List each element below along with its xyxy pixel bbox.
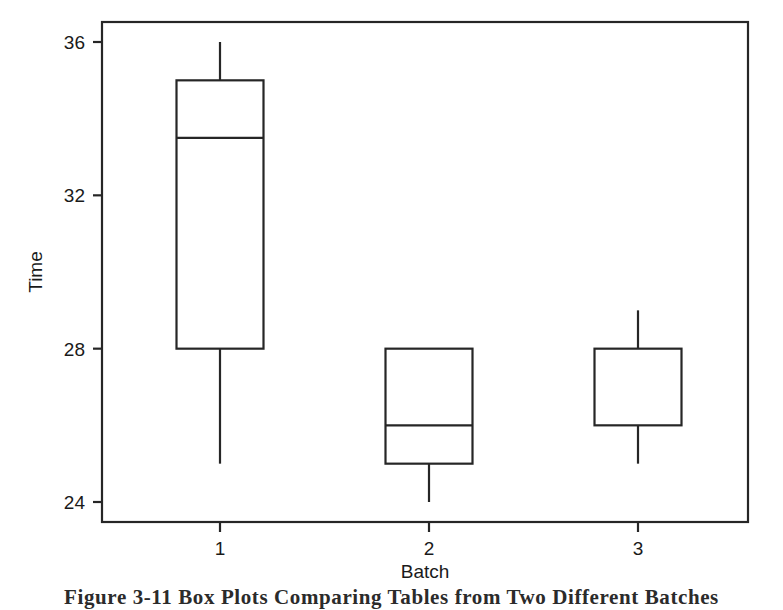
box-plot-1 — [177, 42, 264, 464]
figure-container: 24283236 123 Time Batch Figure 3-11 Box … — [0, 0, 783, 610]
box-plot-2 — [386, 349, 473, 502]
x-tick-label-3: 3 — [633, 538, 644, 559]
figure-caption: Figure 3-11 Box Plots Comparing Tables f… — [0, 585, 783, 610]
y-tick-label-36: 36 — [64, 32, 85, 53]
y-axis-title: Time — [25, 251, 46, 293]
box-iqr — [595, 349, 682, 426]
x-axis-title: Batch — [401, 561, 450, 582]
y-axis: 24283236 — [64, 32, 102, 513]
y-tick-label-32: 32 — [64, 185, 85, 206]
plot-frame — [102, 22, 748, 522]
box-iqr — [177, 80, 264, 348]
y-tick-label-24: 24 — [64, 492, 86, 513]
x-tick-label-2: 2 — [424, 538, 435, 559]
y-tick-label-28: 28 — [64, 339, 85, 360]
box-plot-3 — [595, 310, 682, 463]
x-axis: 123 — [215, 522, 644, 559]
x-tick-label-1: 1 — [215, 538, 226, 559]
box-plot-chart: 24283236 123 Time Batch — [0, 0, 783, 610]
box-plot-series — [177, 42, 682, 502]
box-iqr — [386, 349, 473, 464]
